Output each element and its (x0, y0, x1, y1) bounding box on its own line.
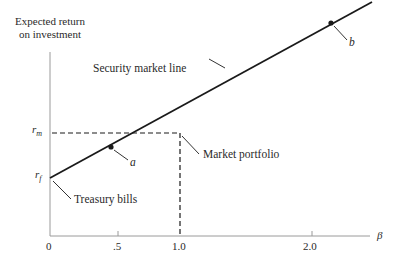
x-tick-label-0.5: .5 (113, 240, 121, 252)
x-tick-label-1.0: 1.0 (172, 240, 186, 252)
market-portfolio-pointer (182, 136, 199, 154)
point-a (108, 144, 113, 149)
sml-pointer (209, 59, 225, 68)
point-b-label: b (349, 36, 355, 48)
x-axis-title: β (377, 229, 382, 241)
x-tick-label-0: 0 (46, 240, 52, 252)
y-tick-rm: rm (32, 123, 42, 138)
y-tick-rf: rf (35, 168, 42, 183)
market-portfolio-label: Market portfolio (203, 148, 279, 160)
treasury-bills-pointer (53, 181, 71, 199)
y-axis-title-line1: Expected return (2, 15, 98, 28)
security-market-line-chart: Expected return on investment rm rf 0 .5… (0, 0, 404, 269)
point-a-pointer (114, 150, 128, 160)
point-b-pointer (334, 26, 347, 40)
x-tick-label-2.0: 2.0 (303, 240, 317, 252)
y-axis-title: Expected return on investment (2, 15, 98, 41)
sml-label: Security market line (93, 62, 186, 74)
y-axis-title-line2: on investment (2, 28, 98, 41)
point-b (328, 20, 333, 25)
point-a-label: a (130, 156, 136, 168)
treasury-bills-label: Treasury bills (74, 193, 137, 205)
